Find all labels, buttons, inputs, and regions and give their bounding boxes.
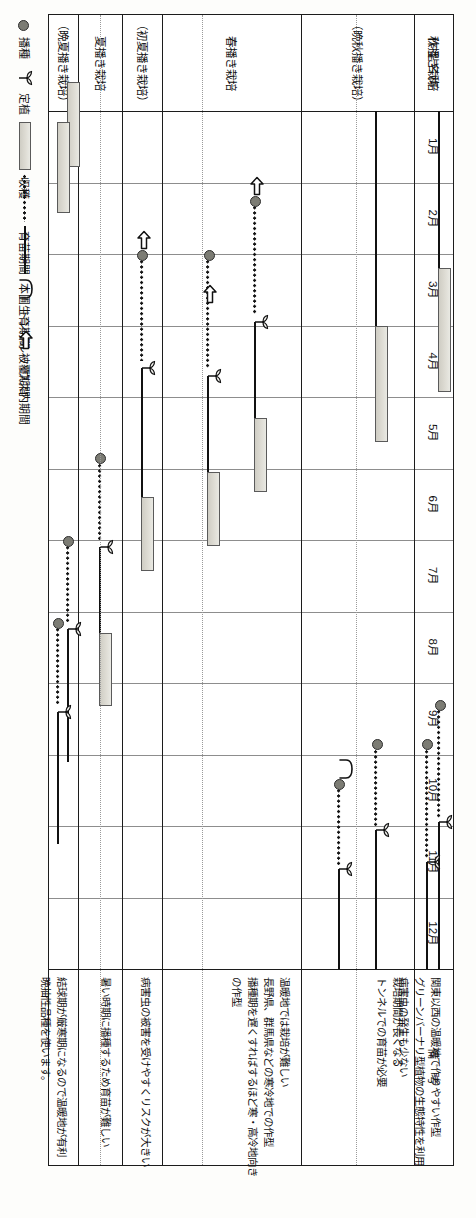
remark-3-0: 病害虫の被害を受けやすくリスクが大きい bbox=[139, 977, 154, 1167]
dotted-line-icon bbox=[21, 174, 29, 226]
month-header-2: 2月 bbox=[415, 183, 453, 255]
field-period-1-1 bbox=[338, 869, 340, 969]
month-gridline-6 bbox=[49, 469, 453, 470]
seeding-mark-4-0 bbox=[96, 453, 107, 464]
seedling-icon-3-0 bbox=[141, 360, 157, 376]
harvest-period-0-0 bbox=[438, 268, 451, 392]
month-gridline-11 bbox=[49, 826, 453, 827]
remark-2-1: 長野県、群馬県などの寒冷地での作型 bbox=[262, 977, 277, 1147]
seedling-icon bbox=[16, 70, 34, 88]
remark-1-0: 栽培期間が長くなる bbox=[391, 977, 406, 1067]
remark-0-1: グリーンバーナリ型植物の生態特性を利用 bbox=[413, 977, 428, 1166]
harvest-period-wrap2-5 bbox=[57, 122, 70, 213]
seeding-mark-1-1 bbox=[334, 779, 345, 790]
nursery-period-3-0 bbox=[139, 254, 144, 361]
remark-5-1: 晩抽性品種を使います。 bbox=[39, 977, 54, 1086]
row-subsep-2 bbox=[100, 15, 101, 1165]
legend: 播種定植収穫育苗期間本圃生育期間トンネル被覆期間ハウス内期間 bbox=[8, 14, 38, 1164]
legend-item-6: ハウス内期間 bbox=[12, 330, 38, 425]
month-gridline-5 bbox=[49, 397, 453, 398]
harvest-period-2-0 bbox=[254, 418, 267, 492]
row-label-2: 春播き栽培 bbox=[163, 15, 302, 111]
legend-item-1: 定植 bbox=[12, 70, 38, 115]
field-period-0-1 bbox=[426, 862, 428, 969]
seeding-mark-3-0 bbox=[138, 250, 149, 261]
seedling-icon-2-0 bbox=[254, 314, 270, 330]
house-arrow-icon-3 bbox=[136, 230, 152, 250]
field-period-5-0 bbox=[67, 629, 69, 761]
seeding-mark-0-0 bbox=[435, 700, 446, 711]
seedling-icon-0-0 bbox=[438, 814, 454, 830]
col-sep-name bbox=[49, 111, 453, 112]
month-header-12: 12月 bbox=[415, 898, 453, 970]
nursery-period-0-1 bbox=[424, 744, 429, 858]
nursery-period-2-0 bbox=[252, 200, 257, 314]
row-label-3: （初夏播き栽培） bbox=[123, 15, 163, 111]
remark-1-1: トンネルでの育苗が必要 bbox=[375, 977, 390, 1087]
month-header-6: 6月 bbox=[415, 469, 453, 541]
month-header-1: 1月 bbox=[415, 111, 453, 183]
month-header-8: 8月 bbox=[415, 612, 453, 684]
month-header-5: 5月 bbox=[415, 397, 453, 469]
month-gridline-12 bbox=[49, 898, 453, 899]
row-label-4: 夏播き栽培 bbox=[79, 15, 123, 111]
legend-label-6: ハウス内期間 bbox=[17, 359, 33, 425]
legend-label-1: 定植 bbox=[17, 93, 33, 115]
harvest-period-2-1 bbox=[207, 472, 220, 546]
nursery-period-5-0 bbox=[65, 540, 70, 622]
seedling-icon-1-0 bbox=[375, 822, 391, 838]
remark-2-2: 播種期を遅くすればするほど寒・高冷地向き bbox=[246, 977, 261, 1177]
harvest-period-3-0 bbox=[141, 497, 154, 571]
house-arrow-icon-2 bbox=[249, 176, 265, 196]
seeding-mark-2-0 bbox=[250, 196, 261, 207]
remark-0-0: 関東以西の温暖地で作りやすい作型 bbox=[429, 977, 444, 1137]
month-gridline-4 bbox=[49, 326, 453, 327]
cropping-calendar-sheet: 作型名称1月2月3月4月5月6月7月8月9月10月11月12月備 考秋播き栽培関… bbox=[0, 0, 476, 1218]
row-sep-4 bbox=[78, 15, 79, 1165]
month-header-9: 9月 bbox=[415, 683, 453, 755]
row-label-0: 秋播き栽培 bbox=[415, 15, 453, 111]
row-sep-1 bbox=[301, 15, 302, 1165]
tunnel-arc-icon bbox=[17, 278, 33, 304]
seedling-icon-4-0 bbox=[99, 539, 115, 555]
nursery-period-1-0 bbox=[373, 744, 378, 826]
field-period-5-1 bbox=[57, 712, 59, 844]
seedling-icon-5-0 bbox=[67, 621, 83, 637]
remark-2-0: 温暖地では栽培が難しい bbox=[278, 977, 293, 1087]
seed-dot-icon bbox=[18, 18, 32, 32]
seeding-mark-2-1 bbox=[204, 250, 215, 261]
seedling-icon-5-1 bbox=[57, 704, 73, 720]
row-sep-2 bbox=[162, 15, 163, 1165]
nursery-period-5-1 bbox=[55, 622, 60, 704]
diagram-stage: 作型名称1月2月3月4月5月6月7月8月9月10月11月12月備 考秋播き栽培関… bbox=[0, 0, 476, 1218]
field-period-1-0 bbox=[375, 830, 377, 969]
cropping-calendar-table: 作型名称1月2月3月4月5月6月7月8月9月10月11月12月備 考秋播き栽培関… bbox=[48, 14, 454, 1166]
row-subsep-1 bbox=[202, 15, 203, 1165]
remark-2-3: の作型 bbox=[230, 977, 245, 1007]
row-sep-3 bbox=[122, 15, 123, 1165]
month-header-7: 7月 bbox=[415, 540, 453, 612]
seedling-icon-1-1 bbox=[338, 861, 354, 877]
nursery-period-1-1 bbox=[336, 783, 341, 865]
legend-label-0: 播種 bbox=[17, 37, 33, 59]
row-label-1: （晩秋播き栽培） bbox=[302, 15, 415, 111]
remark-5-0: 結球期が厳寒期になるので温暖地が有利 bbox=[55, 977, 70, 1157]
tunnel-arc-icon-1 bbox=[339, 758, 353, 780]
seeding-mark-5-1 bbox=[54, 618, 65, 629]
month-gridline-10 bbox=[49, 755, 453, 756]
legend-item-0: 播種 bbox=[12, 18, 38, 59]
seeding-mark-1-0 bbox=[372, 739, 383, 750]
harvest-bar-icon bbox=[19, 122, 31, 172]
seeding-mark-5-0 bbox=[64, 536, 75, 547]
house-arrow-icon bbox=[16, 330, 34, 354]
row-subsep-0 bbox=[356, 15, 357, 1165]
remark-4-0: 暑い時期に播種するため育苗が難しい bbox=[99, 977, 114, 1147]
seedling-icon-0-1 bbox=[426, 854, 442, 870]
seedling-icon-2-1 bbox=[207, 368, 223, 384]
house-arrow-icon-2-b bbox=[202, 284, 218, 304]
solid-line-icon bbox=[21, 226, 29, 278]
nursery-period-0-0 bbox=[436, 704, 441, 818]
col-sep-remarks bbox=[49, 969, 453, 970]
month-gridline-8 bbox=[49, 612, 453, 613]
field-period-0-0 bbox=[438, 822, 440, 969]
